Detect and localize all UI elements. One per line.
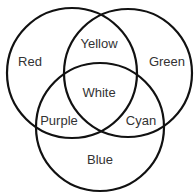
- region-label-cyan: Cyan: [126, 113, 156, 128]
- venn-diagram: Red Yellow Green White Purple Cyan Blue: [0, 0, 196, 193]
- region-label-white: White: [82, 85, 115, 100]
- region-label-green: Green: [149, 54, 185, 69]
- region-label-yellow: Yellow: [80, 36, 118, 51]
- region-label-purple: Purple: [40, 113, 78, 128]
- region-label-red: Red: [18, 54, 42, 69]
- region-label-blue: Blue: [87, 152, 113, 167]
